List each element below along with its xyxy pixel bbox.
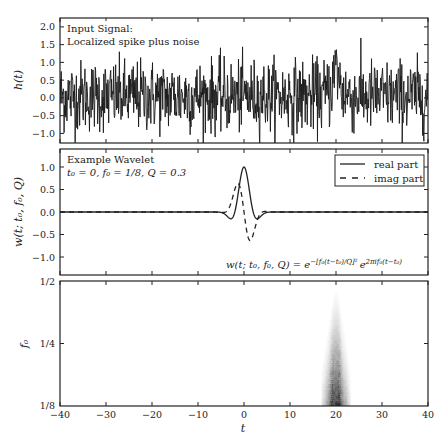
xtick-label: −40 <box>50 409 70 420</box>
legend-real-label: real part <box>374 159 418 170</box>
xtick-label: −30 <box>96 409 116 420</box>
xtick-label: 0 <box>241 409 247 420</box>
panel-input-signal: 2.01.51.00.50.0−0.5−1.0 Input Signal: Lo… <box>12 18 428 158</box>
x-axis-label: t <box>241 422 246 435</box>
ytick-label: −0.5 <box>32 110 55 121</box>
annotation-line-1: Example Wavelet <box>67 154 154 165</box>
annotation-line-2: t₀ = 0, f₀ = 1/8, Q = 0.3 <box>67 167 186 178</box>
x-ticks <box>60 281 428 406</box>
legend: real part imag part <box>335 155 424 186</box>
xtick-label: 20 <box>330 409 342 420</box>
xtick-label: 30 <box>376 409 388 420</box>
y-axis-label: h(t) <box>12 70 25 90</box>
annotation-line-1: Input Signal: <box>67 23 133 34</box>
x-tick-labels: −40−30−20−10010203040 <box>50 409 434 420</box>
ytick-label: 0.5 <box>40 184 55 195</box>
ytick-label: 1.5 <box>40 39 55 50</box>
panel-frame <box>60 281 428 406</box>
ytick-label: 1.0 <box>40 57 55 68</box>
formula-exp2: 2πif₀(t−t₀) <box>365 258 403 266</box>
y-axis-label: w(t; t₀, f₀, Q) <box>12 177 25 247</box>
ytick-label-mid: 1/4 <box>40 338 55 349</box>
wavelet-imag-line <box>60 183 428 240</box>
ytick-label: 1.0 <box>40 162 55 173</box>
ytick-label-top: 1/2 <box>40 276 55 287</box>
ytick-label: −0.5 <box>32 229 55 240</box>
wavelet-formula: w(t; t₀, f₀, Q) = e−[f₀(t−t₀)/Q]²e2πif₀(… <box>226 258 402 270</box>
xtick-label: −20 <box>142 409 162 420</box>
panel-wavelet-psd: 1/2 1/4 1/8 −40−30−20−10010203040 t f₀ <box>18 276 434 435</box>
xtick-label: 10 <box>284 409 296 420</box>
xtick-label: 40 <box>422 409 434 420</box>
formula-lhs: w(t; t₀, f₀, Q) = e <box>226 259 310 270</box>
ytick-label: 0.5 <box>40 75 55 86</box>
figure: 2.01.51.00.50.0−0.5−1.0 Input Signal: Lo… <box>0 0 448 448</box>
ytick-label: −1.0 <box>32 252 55 263</box>
formula-exp1: −[f₀(t−t₀)/Q]² <box>310 258 358 266</box>
panel-example-wavelet: 1.00.50.0−0.5−1.0 Example Wavelet t₀ = 0… <box>12 149 428 275</box>
xtick-label: −10 <box>188 409 208 420</box>
annotation-line-2: Localized spike plus noise <box>67 36 199 47</box>
ytick-label: 0.0 <box>40 92 55 103</box>
legend-imag-label: imag part <box>374 173 423 184</box>
ytick-label: 0.0 <box>40 207 55 218</box>
y-axis-label: f₀ <box>18 339 31 349</box>
svg-text:w(t; t₀, f₀, Q) = e−[f₀(t−t₀)/: w(t; t₀, f₀, Q) = e−[f₀(t−t₀)/Q]²e2πif₀(… <box>226 258 402 270</box>
ytick-label: −1.0 <box>32 128 55 139</box>
psd-heatmap <box>322 293 351 408</box>
ytick-label: 2.0 <box>40 21 55 32</box>
